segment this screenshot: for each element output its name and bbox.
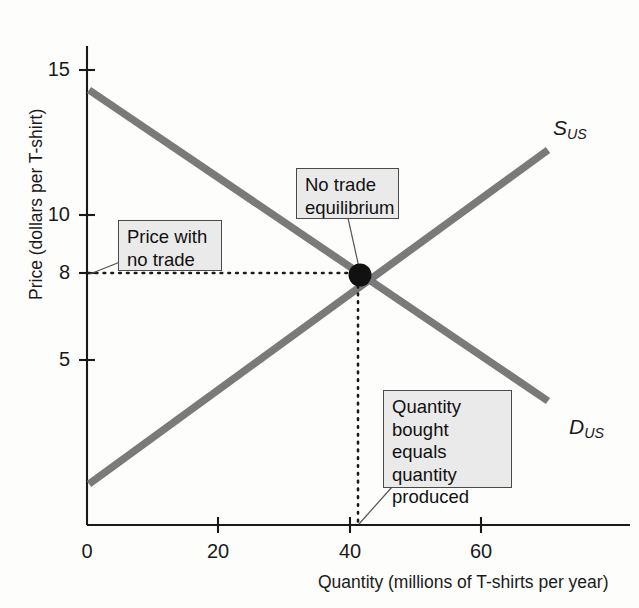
y-tick-label-5: 5: [36, 348, 70, 371]
supply-curve-label-sub: US: [567, 126, 587, 142]
demand-curve-label: DUS: [569, 415, 604, 439]
x-tick-label-0: 0: [67, 540, 107, 563]
x-axis-title: Quantity (millions of T-shirts per year): [318, 572, 608, 593]
demand-curve-label-sub: US: [584, 425, 604, 441]
x-tick-label-40: 40: [330, 540, 370, 563]
equilibrium-point-marker: [349, 264, 372, 287]
demand-curve-label-main: D: [569, 415, 584, 438]
callout-price-with-no-trade: Price with no trade: [118, 220, 222, 271]
quantity-callout-leader: [359, 487, 392, 524]
callout-no-trade-equilibrium: No trade equilibrium: [296, 168, 399, 219]
supply-demand-chart-figure: 15 10 8 5 0 20 40 60 Price (dollars per …: [0, 0, 639, 608]
plot-canvas: [0, 0, 639, 608]
supply-curve-label: SUS: [553, 116, 587, 140]
supply-curve-label-main: S: [553, 116, 567, 139]
y-axis-title: Price (dollars per T-shirt): [26, 109, 47, 300]
callout-quantity-bought-equals-quantity-produced: Quantity bought equals quantity produced: [383, 390, 512, 488]
x-tick-label-20: 20: [198, 540, 238, 563]
x-tick-label-60: 60: [461, 540, 501, 563]
y-tick-label-15: 15: [36, 58, 70, 81]
